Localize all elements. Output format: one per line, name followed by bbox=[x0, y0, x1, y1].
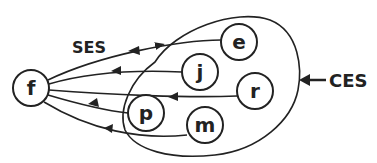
node-p: p bbox=[128, 95, 164, 131]
svg-text:f: f bbox=[27, 76, 36, 100]
arrow-icon bbox=[104, 124, 113, 133]
svg-text:m: m bbox=[195, 113, 216, 137]
ces-label: CES bbox=[329, 70, 367, 91]
svg-text:j: j bbox=[196, 60, 204, 84]
node-j: j bbox=[182, 54, 218, 90]
diagram: f e j r p m SES CES bbox=[0, 0, 377, 163]
svg-text:e: e bbox=[232, 30, 246, 54]
arrow-icon bbox=[299, 74, 310, 86]
edge-m-f bbox=[44, 102, 187, 136]
node-e: e bbox=[221, 24, 257, 60]
arrow-icon bbox=[111, 66, 121, 75]
svg-text:p: p bbox=[139, 101, 153, 125]
edge-j-f bbox=[49, 71, 182, 84]
node-f: f bbox=[13, 70, 49, 106]
ses-label: SES bbox=[72, 38, 106, 57]
svg-text:r: r bbox=[250, 79, 260, 103]
node-r: r bbox=[237, 73, 273, 109]
ces-pointer bbox=[299, 74, 326, 86]
arrow-icon bbox=[128, 46, 140, 55]
arrow-icon bbox=[168, 92, 178, 101]
node-m: m bbox=[187, 107, 223, 143]
